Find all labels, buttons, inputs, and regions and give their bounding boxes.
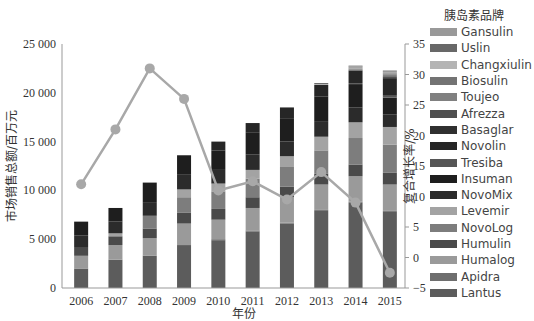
bar-segment-biosulin (349, 68, 363, 69)
x-tick-label: 2015 (378, 294, 402, 308)
bar-segment-tresiba (383, 96, 397, 98)
x-axis-label: 年份 (232, 307, 256, 321)
bar-segment-lantus (211, 240, 225, 288)
bar-segment-novolog (143, 216, 157, 229)
bar-segment-biosulin (383, 73, 397, 74)
legend-swatch (430, 289, 457, 297)
bar-segment-novolin (280, 107, 294, 118)
y-axis-right-label: 复合增长率/% (402, 128, 417, 203)
bar-segment-apidra (280, 223, 294, 224)
legend-label: Changxiulin (461, 58, 532, 72)
legend-item-afrezza: Afrezza (430, 105, 534, 121)
y-tick-label: 25 000 (23, 37, 56, 51)
bar-segment-uslin (314, 83, 328, 84)
legend-swatch (430, 256, 457, 264)
bar-segment-novolog (383, 145, 397, 173)
bar-segment-lantus (108, 260, 122, 288)
bar-segment-uslin (349, 66, 363, 67)
bar-segment-changxiulin (314, 84, 328, 85)
legend-item-lantus: Lantus (430, 285, 534, 301)
legend-swatch (430, 191, 457, 199)
legend-item-novolin: Novolin (430, 138, 534, 154)
bar-segment-toujeo (383, 74, 397, 76)
bar-segment-novolin (314, 85, 328, 97)
legend-swatch (430, 224, 457, 232)
y-tick-label: 10 000 (23, 183, 56, 197)
bar-stack-2006 (74, 222, 88, 288)
bar-segment-insuman (280, 118, 294, 141)
legend-label: Apidra (461, 270, 500, 284)
legend-items: GansulinUslinChangxiulinBiosulinToujeoAf… (430, 24, 534, 301)
growth-point-2007 (110, 124, 120, 134)
bar-segment-humulin (74, 247, 88, 256)
x-tick-label: 2008 (138, 294, 162, 308)
growth-line (76, 63, 395, 277)
bar-segment-novomix (177, 175, 191, 190)
legend-item-biosulin: Biosulin (430, 73, 534, 89)
legend-item-humulin: Humulin (430, 236, 534, 252)
legend-item-toujeo: Toujeo (430, 89, 534, 105)
bar-segment-novomix (143, 202, 157, 216)
growth-rate-line (81, 68, 390, 272)
y-tick-label: 0 (50, 281, 56, 295)
legend-item-gansulin: Gansulin (430, 24, 534, 40)
bar-segment-insuman (314, 97, 328, 121)
bar-stack-2008 (143, 183, 157, 288)
stacked-bars (74, 65, 397, 288)
bar-segment-novomix (314, 121, 328, 137)
bar-segment-toujeo (349, 69, 363, 70)
bar-segment-lantus (177, 245, 191, 288)
bar-segment-novomix (383, 114, 397, 127)
legend-label: NovoLog (461, 221, 513, 235)
bar-segment-lantus (349, 203, 363, 288)
legend-label: Novolin (461, 139, 506, 153)
bar-segment-novomix (349, 108, 363, 123)
bar-segment-novolog (349, 138, 363, 164)
legend-swatch (430, 142, 457, 150)
bar-segment-humulin (177, 213, 191, 224)
bar-segment-apidra (211, 239, 225, 240)
y-tick-label: 5 000 (29, 232, 56, 246)
y-right-tick-label: 35 (413, 37, 425, 51)
bar-stack-2014 (349, 65, 363, 288)
legend-swatch (430, 207, 457, 215)
legend-swatch (430, 175, 457, 183)
bar-segment-levemir (349, 122, 363, 138)
bar-segment-humulin (108, 236, 122, 245)
legend-label: Afrezza (461, 107, 505, 121)
legend-label: Humalog (461, 253, 515, 267)
bar-segment-insuman (143, 183, 157, 203)
bar-segment-uslin (383, 71, 397, 72)
legend-item-uslin: Uslin (430, 40, 534, 56)
legend-swatch (430, 273, 457, 281)
bar-segment-changxiulin (383, 72, 397, 73)
legend-swatch (430, 126, 457, 134)
legend-swatch (430, 61, 457, 69)
bar-segment-humalog (108, 245, 122, 260)
growth-point-2013 (316, 167, 326, 177)
bar-segment-novomix (74, 235, 88, 247)
bar-stack-2011 (246, 123, 260, 288)
legend-swatch (430, 93, 457, 101)
legend-label: Gansulin (461, 25, 513, 39)
legend-swatch (430, 77, 457, 85)
growth-point-2015 (385, 268, 395, 278)
y-right-tick-label: 25 (413, 98, 425, 112)
bar-segment-novomix (246, 154, 260, 170)
bar-segment-humalog (177, 224, 191, 245)
bar-segment-novolog (177, 197, 191, 213)
bar-segment-novolin (349, 70, 363, 83)
x-tick-label: 2013 (309, 294, 333, 308)
y-tick-label: 20 000 (23, 86, 56, 100)
legend-item-apidra: Apidra (430, 268, 534, 284)
bar-segment-humalog (74, 256, 88, 269)
bar-segment-gansulin (383, 70, 397, 71)
legend-item-levemir: Levemir (430, 203, 534, 219)
legend-label: Toujeo (461, 90, 499, 104)
bar-segment-lantus (143, 256, 157, 288)
bar-segment-insuman (108, 208, 122, 222)
legend-item-changxiulin: Changxiulin (430, 57, 534, 73)
bar-segment-levemir (280, 156, 294, 167)
bar-segment-insuman (177, 155, 191, 175)
bar-segment-apidra (314, 210, 328, 211)
